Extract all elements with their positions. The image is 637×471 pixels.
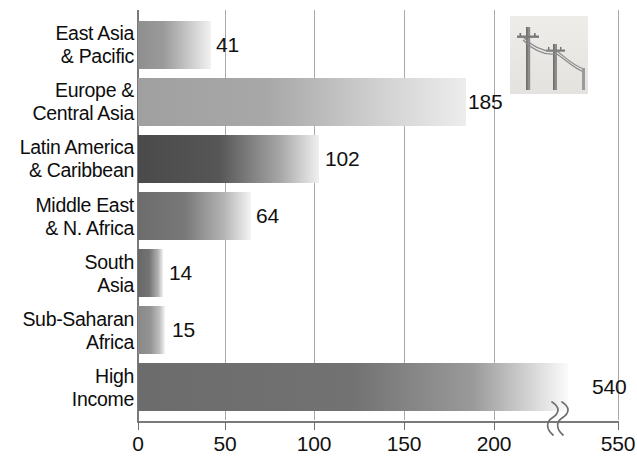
bar-chart: East Asia & Pacific Europe & Central Asi… xyxy=(0,0,637,471)
gridline-100 xyxy=(314,10,315,420)
tick-label-150: 150 xyxy=(387,432,421,456)
value-label-europe-central-asia: 185 xyxy=(468,90,502,114)
bar-east-asia-pacific xyxy=(138,21,211,69)
bar-south-asia xyxy=(138,249,163,297)
category-label-latin-america-caribbean: Latin America & Caribbean xyxy=(20,136,134,182)
value-label-middle-east-n-africa: 64 xyxy=(256,204,279,228)
value-label-south-asia: 14 xyxy=(169,261,192,285)
bar-europe-central-asia xyxy=(138,78,466,126)
category-label-europe-central-asia: Europe & Central Asia xyxy=(32,79,134,125)
bar-latin-america-caribbean xyxy=(138,135,319,183)
tick-label-50: 50 xyxy=(214,432,237,456)
tick-mark-100 xyxy=(314,421,315,430)
category-label-east-asia-pacific: East Asia & Pacific xyxy=(55,22,134,68)
category-label-middle-east-n-africa: Middle East & N. Africa xyxy=(35,194,134,240)
axis-break-icon xyxy=(546,398,574,438)
tick-mark-550 xyxy=(618,421,619,430)
category-label-sub-saharan-africa: Sub-Saharan Africa xyxy=(22,308,134,354)
value-label-latin-america-caribbean: 102 xyxy=(325,147,359,171)
bar-sub-saharan-africa xyxy=(138,306,165,354)
category-label-south-asia: South Asia xyxy=(85,251,134,297)
tick-label-200: 200 xyxy=(477,432,511,456)
tick-mark-200 xyxy=(494,421,495,430)
gridline-200 xyxy=(494,10,495,420)
tick-mark-0 xyxy=(138,421,139,430)
gridline-550 xyxy=(618,10,619,420)
utility-poles-photo xyxy=(510,16,588,94)
tick-mark-150 xyxy=(404,421,405,430)
tick-label-0: 0 xyxy=(132,432,143,456)
tick-label-100: 100 xyxy=(297,432,331,456)
tick-mark-50 xyxy=(225,421,226,430)
bar-high-income xyxy=(138,363,568,411)
category-label-high-income: High Income xyxy=(72,365,134,411)
value-label-high-income: 540 xyxy=(592,375,626,399)
tick-label-550: 550 xyxy=(601,432,635,456)
bar-middle-east-n-africa xyxy=(138,192,251,240)
value-label-sub-saharan-africa: 15 xyxy=(172,318,195,342)
value-label-east-asia-pacific: 41 xyxy=(216,33,239,57)
gridline-150 xyxy=(404,10,405,420)
